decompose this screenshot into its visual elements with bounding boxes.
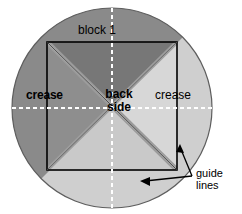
label-back-side-line2: side [90,101,148,114]
label-crease-left: crease [26,89,63,102]
diagram-canvas: block 1 crease crease back side guide li… [0,0,242,214]
label-guide-lines: guide lines [196,168,223,191]
label-back-side-line1: back [90,88,148,101]
label-guide-lines-line2: lines [196,180,223,192]
label-block-1: block 1 [78,24,116,37]
label-guide-lines-line1: guide [196,168,223,180]
label-back-side: back side [90,88,148,113]
label-crease-right: crease [155,89,191,102]
